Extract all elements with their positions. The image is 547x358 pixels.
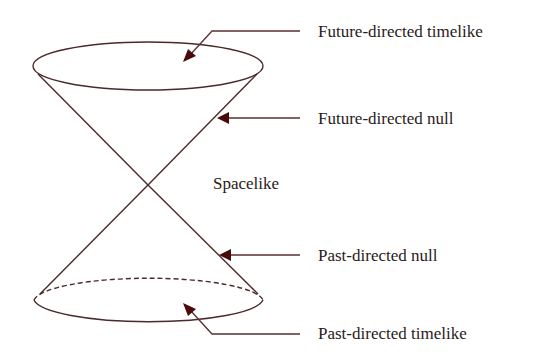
past-cone-right-edge <box>148 185 258 294</box>
past-timelike-arrow <box>183 303 300 334</box>
future-cone-left-edge <box>38 74 148 185</box>
past-null-arrow <box>219 249 300 261</box>
future-timelike-arrow <box>183 31 300 62</box>
arrowhead-icon <box>219 249 231 261</box>
light-cone-diagram: Future-directed timelike Future-directed… <box>0 0 547 358</box>
past-cone-left-edge <box>40 185 148 294</box>
future-null-arrow <box>217 112 300 124</box>
label-future-directed-timelike: Future-directed timelike <box>318 22 483 41</box>
label-spacelike: Spacelike <box>213 174 279 193</box>
label-past-directed-timelike: Past-directed timelike <box>318 324 467 343</box>
past-cone-rim-back-dashed <box>34 278 263 300</box>
future-cone-right-edge <box>148 74 257 185</box>
label-future-directed-null: Future-directed null <box>318 109 454 128</box>
past-cone-rim-front <box>34 300 263 322</box>
future-cone-rim <box>33 42 263 90</box>
label-past-directed-null: Past-directed null <box>318 246 438 265</box>
